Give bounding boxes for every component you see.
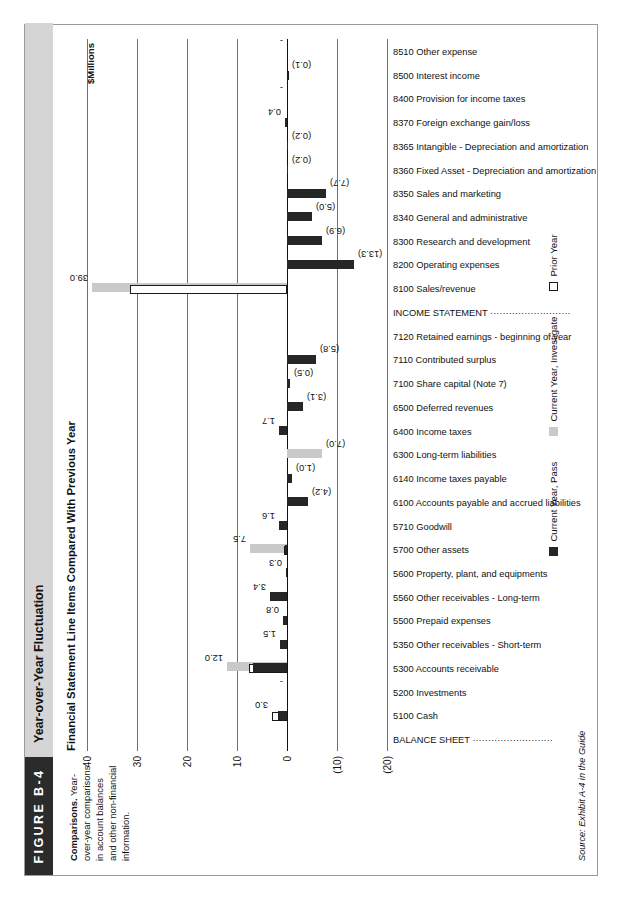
chart-title: Financial Statement Line Items Compared … (65, 421, 77, 751)
bar-value-label: (0.1) (292, 60, 311, 70)
category-label: 8300 Research and development (393, 237, 530, 247)
y-axis-tick-label: (20) (382, 753, 393, 774)
legend-item: Current Year, Pass (548, 462, 559, 556)
bar-value-label: (6.9) (326, 226, 345, 236)
bar-current-year-investigate (287, 449, 322, 458)
page-canvas: FIGURE B-4 Year-over-Year Fluctuation Co… (0, 0, 622, 900)
category-label: 7100 Share capital (Note 7) (393, 379, 507, 389)
category-label: 5200 Investments (393, 688, 466, 698)
legend-label: Current Year, Investigate (548, 317, 559, 422)
bar-current-year-pass (285, 545, 288, 554)
bar-value-label: 0.8 (266, 605, 279, 615)
category-label: 8200 Operating expenses (393, 260, 499, 270)
category-label: 8500 Interest income (393, 71, 480, 81)
bar-current-year-pass (280, 640, 288, 649)
category-label: 7110 Contributed surplus (393, 355, 496, 365)
bar-current-year-pass (287, 402, 303, 411)
bar-value-label: 0.3 (269, 558, 282, 568)
category-label: 8350 Sales and marketing (393, 189, 501, 199)
category-label: 5700 Other assets (393, 545, 469, 555)
category-label: 6500 Deferred revenues (393, 403, 493, 413)
category-label: 6300 Long-term liabilities (393, 450, 496, 460)
bar-current-year-investigate (250, 544, 288, 553)
bar-value-label: - (280, 677, 283, 687)
bar-current-year-pass (287, 474, 292, 483)
category-section-label: INCOME STATEMENT ·······················… (393, 308, 571, 318)
bar-value-label: (0.5) (294, 368, 313, 378)
category-label: 8340 General and administrative (393, 213, 527, 223)
category-label: 8510 Other expense (393, 47, 477, 57)
bar-current-year-pass (287, 213, 312, 222)
bar-value-label: (5.8) (320, 344, 339, 354)
bar-current-year-pass (285, 118, 287, 127)
bar-current-year-pass (279, 521, 287, 530)
category-label: 5500 Prepaid expenses (393, 616, 491, 626)
rotated-figure-container: FIGURE B-4 Year-over-Year Fluctuation Co… (24, 24, 598, 876)
bar-value-label: (0.2) (292, 131, 311, 141)
bar-value-label: (7.7) (330, 178, 349, 188)
figure-header: FIGURE B-4 Year-over-Year Fluctuation (25, 23, 53, 875)
bar-current-year-pass (283, 616, 287, 625)
bar-value-label: 7.5 (233, 534, 246, 544)
bar-current-year-pass (287, 260, 354, 269)
category-label: 5600 Property, plant, and equipments (393, 569, 547, 579)
figure-description: Comparisons. Year-over-year comparisons … (67, 765, 132, 861)
category-label: 8100 Sales/revenue (393, 284, 476, 294)
category-label: 5350 Other receivables - Short-term (393, 640, 541, 650)
bar-current-year-pass (287, 141, 288, 150)
bar-current-year-pass (278, 711, 288, 720)
bar-current-year-pass (287, 497, 308, 506)
bar-current-year-pass (287, 379, 290, 388)
bar-prior-year (287, 71, 289, 80)
legend-swatch-icon (549, 547, 558, 556)
bar-prior-year (130, 285, 288, 294)
bar-value-label: (4.2) (312, 487, 331, 497)
category-label: 6140 Income taxes payable (393, 474, 507, 484)
chart-legend: Current Year, PassCurrent Year, Investig… (548, 39, 559, 751)
bar-value-label: (5.0) (316, 202, 335, 212)
category-label: 5560 Other receivables - Long-term (393, 593, 540, 603)
legend-swatch-icon (549, 427, 558, 436)
bar-value-label: (1.0) (296, 463, 315, 473)
bar-value-label: 12.0 (205, 653, 223, 663)
legend-label: Current Year, Pass (548, 462, 559, 542)
bar-current-year-pass (253, 663, 287, 672)
y-axis-tick-label: 0 (282, 753, 293, 762)
bar-value-label: 3.4 (253, 582, 266, 592)
bar-value-label: - (280, 36, 283, 46)
gridline (387, 39, 388, 751)
bar-value-label: 39.0 (70, 273, 88, 283)
category-label: 8370 Foreign exchange gain/loss (393, 118, 530, 128)
bar-current-year-pass (287, 355, 316, 364)
figure-title: Year-over-Year Fluctuation (25, 23, 53, 757)
category-label: 8360 Fixed Asset - Depreciation and amor… (393, 166, 596, 176)
category-label: 8365 Intangible - Depreciation and amort… (393, 142, 588, 152)
bar-value-label: (7.0) (326, 439, 345, 449)
y-axis-tick-label: 20 (182, 753, 193, 767)
bar-current-year-pass (287, 236, 322, 245)
category-label: 5300 Accounts receivable (393, 664, 499, 674)
category-label: 8400 Provision for income taxes (393, 94, 525, 104)
description-lead: Comparisons. (68, 798, 79, 861)
bar-value-label: 1.7 (262, 416, 275, 426)
figure-frame: FIGURE B-4 Year-over-Year Fluctuation Co… (24, 24, 598, 876)
bar-current-year-pass (279, 426, 288, 435)
legend-item: Current Year, Investigate (548, 317, 559, 436)
category-label: 6400 Income taxes (393, 427, 472, 437)
y-axis-tick-label: (10) (332, 753, 343, 774)
bar-current-year-pass (287, 189, 326, 198)
bar-value-label: (0.2) (292, 155, 311, 165)
plot-area: $Millions (20)(10)010203040 3.0-12.01.50… (87, 39, 387, 751)
category-section-label: BALANCE SHEET ·························· (393, 735, 553, 745)
legend-swatch-icon (549, 282, 558, 291)
bar-value-label: - (280, 83, 283, 93)
category-labels: BALANCE SHEET ··························… (391, 39, 563, 751)
bar-value-label: 1.5 (263, 629, 276, 639)
category-label: 5100 Cash (393, 711, 438, 721)
legend-item: Prior Year (548, 234, 559, 290)
bar-current-year-pass (286, 569, 288, 578)
bar-series-container: 3.0-12.01.50.83.40.37.51.6(4.2)(1.0)(7.0… (87, 39, 387, 751)
source-note: Source: Exhibit A-4 in the Guide (577, 731, 587, 861)
bar-value-label: (13.3) (358, 249, 382, 259)
legend-label: Prior Year (548, 234, 559, 276)
